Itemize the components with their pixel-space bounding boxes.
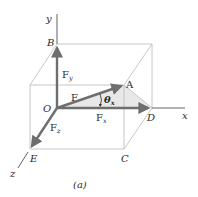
axis-label-x: x (182, 110, 188, 121)
coordinate-axes (18, 14, 185, 168)
point-label-o: O (43, 103, 51, 114)
label-f: F (71, 92, 78, 103)
axis-label-z: z (9, 168, 16, 179)
axis-label-y: y (45, 13, 52, 24)
point-label-e: E (29, 153, 38, 164)
point-label-c: C (121, 153, 129, 164)
z-axis (18, 152, 28, 168)
label-fx: Fx (96, 112, 107, 125)
label-fz: Fz (50, 122, 61, 135)
figure-caption: (a) (73, 179, 87, 190)
point-label-b: B (46, 37, 54, 48)
force-component-diagram: y x z B O A D E C Fy F Fx Fz θx (a) (0, 0, 198, 197)
point-label-d: D (146, 112, 155, 123)
label-fy: Fy (62, 69, 73, 82)
point-label-a: A (125, 79, 134, 90)
